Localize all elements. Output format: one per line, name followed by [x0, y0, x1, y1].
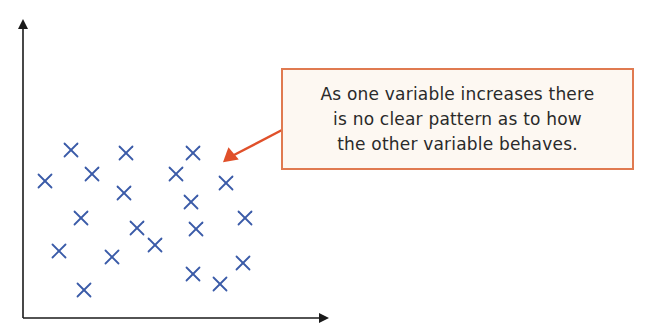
x-marker [65, 144, 78, 157]
callout-line: is no clear pattern as to how [321, 107, 595, 132]
x-marker [75, 212, 88, 225]
x-marker [214, 278, 227, 291]
callout-line: As one variable increases there [321, 82, 595, 107]
callout-text: As one variable increases there is no cl… [309, 82, 607, 157]
x-marker [237, 257, 250, 270]
x-marker [53, 245, 66, 258]
annotation-arrow [221, 130, 282, 162]
x-marker [106, 251, 119, 264]
x-marker [39, 175, 52, 188]
x-marker [187, 268, 200, 281]
annotation-callout: As one variable increases there is no cl… [281, 68, 634, 170]
x-marker [120, 147, 133, 160]
x-marker [86, 168, 99, 181]
x-marker [220, 177, 233, 190]
data-points [39, 144, 252, 297]
x-marker [239, 212, 252, 225]
x-marker [118, 187, 131, 200]
x-marker [170, 168, 183, 181]
x-marker [187, 147, 200, 160]
callout-line: the other variable behaves. [321, 132, 595, 157]
x-marker [185, 196, 198, 209]
x-marker [131, 222, 144, 235]
x-marker [190, 223, 203, 236]
x-marker [78, 284, 91, 297]
x-marker [149, 239, 162, 252]
